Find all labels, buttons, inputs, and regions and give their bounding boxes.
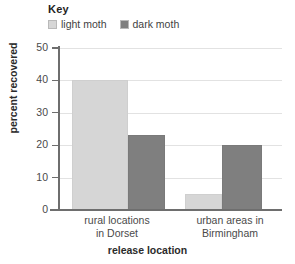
bar-dark-moth-group-1 <box>222 145 262 210</box>
legend-title: Key <box>48 3 278 16</box>
category-label-0: rural locations in Dorset <box>62 214 172 239</box>
category-label-1-line1: urban areas in <box>175 214 285 227</box>
y-tick-label-0: 0 <box>14 204 48 215</box>
x-axis-title: release location <box>0 244 295 257</box>
bar-dark-moth-group-0 <box>128 135 165 210</box>
bar-chart-figure: Key light moth dark moth 01020304050 per… <box>0 0 295 264</box>
x-axis-category-labels: rural locations in Dorset urban areas in… <box>59 214 282 244</box>
category-label-0-line2: in Dorset <box>62 227 172 240</box>
y-tick-mark-10 <box>52 177 58 178</box>
legend-swatch-light-moth <box>48 20 57 29</box>
y-tick-label-10: 10 <box>14 172 48 183</box>
y-tick-label-50: 50 <box>14 42 48 53</box>
y-tick-mark-50 <box>52 47 58 48</box>
y-tick-mark-20 <box>52 145 58 146</box>
legend-entries: light moth dark moth <box>48 18 278 30</box>
legend-swatch-dark-moth <box>120 20 129 29</box>
legend-label-dark-moth: dark moth <box>133 18 180 30</box>
chart-legend: Key light moth dark moth <box>48 3 278 41</box>
y-axis-line <box>58 46 60 211</box>
y-tick-mark-0 <box>52 209 58 210</box>
category-label-1: urban areas in Birmingham <box>175 214 285 239</box>
bar-light-moth-group-0 <box>72 80 128 210</box>
y-axis-title: percent recovered <box>7 28 19 148</box>
bar-light-moth-group-1 <box>185 194 222 210</box>
category-label-0-line1: rural locations <box>62 214 172 227</box>
legend-entry-light-moth: light moth <box>48 18 107 30</box>
legend-entry-dark-moth: dark moth <box>120 18 180 30</box>
bars-layer <box>60 48 282 210</box>
category-label-1-line2: Birmingham <box>175 227 285 240</box>
y-tick-mark-40 <box>52 80 58 81</box>
y-tick-label-30: 30 <box>14 107 48 118</box>
legend-label-light-moth: light moth <box>61 18 107 30</box>
x-axis-line <box>50 209 282 211</box>
y-tick-label-20: 20 <box>14 139 48 150</box>
y-tick-mark-30 <box>52 112 58 113</box>
y-tick-label-40: 40 <box>14 74 48 85</box>
